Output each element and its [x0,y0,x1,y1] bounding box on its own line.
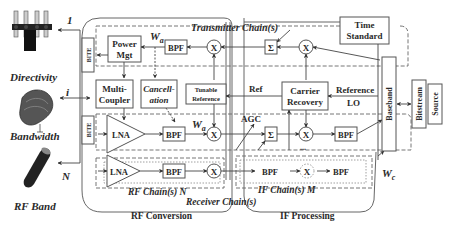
svg-text:BPF: BPF [338,130,354,140]
if-bpf-2-label: BPF [333,167,349,177]
tx-bite-label: BITE [86,48,92,62]
directivity-antenna-icon [12,11,52,51]
carrier-recovery-label-2: Recovery [287,97,323,107]
ref-label: Ref [249,84,263,94]
transmitter-chain-label: Transmitter Chain(s) [191,22,278,34]
svg-text:X: X [304,167,311,177]
svg-text:BPF: BPF [166,130,182,140]
svg-text:X: X [211,167,218,177]
cancellation-label-2: ation [149,95,168,105]
reference-lo-label-1: Reference [336,85,374,95]
if-processing-label: IF Processing [280,211,335,221]
tx-bpf-label: BPF [168,43,184,53]
if-bpf-1-label: BPF [262,167,278,177]
time-standard-label-2: Standard [346,31,382,41]
svg-text:X: X [303,130,310,140]
multi-coupler-label-1: Multi- [102,84,127,94]
tx-wa-label: Wa [150,30,164,45]
bandwidth-pattern-icon [20,90,53,132]
carrier-recovery-label-1: Carrier [290,86,319,96]
svg-text:X: X [303,43,310,53]
rx-ellipsis-1: ... [300,143,306,152]
port-1-label: 1 [67,14,73,26]
baseband-label: Baseband [385,87,394,121]
svg-text:BPF: BPF [166,167,182,177]
rx-bite-label: BITE [86,123,92,137]
wc-label: Wc [382,167,396,182]
bandwidth-label: Bandwidth [9,130,60,142]
power-mgt-label-2: Mgt [117,50,133,60]
rf-band-label: RF Band [13,200,56,212]
tx-sum-label: Σ [268,43,274,53]
tunable-reference-label-1: Tunable [195,86,218,93]
svg-text:X: X [211,130,218,140]
if-chains-label: IF Chain(s) M [257,185,316,196]
rf-conversion-label: RF Conversion [131,211,193,221]
port-n-label: N [61,170,71,182]
rx-wa-label: Wa [192,118,206,133]
lna-2-label: LNA [110,167,129,177]
svg-text:Σ: Σ [268,130,274,140]
lna-1-label: LNA [112,130,131,140]
cancellation-label-1: Cancell- [143,84,175,94]
receiver-chains-label: Receiver Chain(s) [185,197,256,208]
rf-chains-label: RF Chain(s) N [127,187,188,198]
rf-band-horn-icon [24,146,52,188]
power-mgt-label-1: Power [112,39,137,49]
agc-label: AGC [241,114,261,124]
reference-lo-label-2: LO [347,98,360,108]
tx-mixer-label: X [211,43,218,53]
time-standard-label-1: Time [355,20,375,30]
directivity-label: Directivity [9,71,57,83]
source-label: Source [431,92,440,116]
tunable-reference-label-2: Reference [192,95,220,102]
port-i-label: i [66,86,70,98]
bitstream-label: Bitstream [415,87,424,121]
multi-coupler-label-2: Coupler [99,95,131,105]
